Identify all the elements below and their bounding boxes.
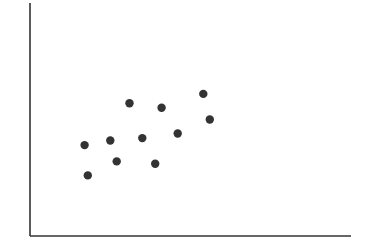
data-point xyxy=(206,115,214,123)
data-point xyxy=(174,129,182,137)
data-point xyxy=(151,160,159,168)
scatter-chart xyxy=(0,0,368,250)
data-point xyxy=(106,136,114,144)
data-point xyxy=(138,134,146,142)
data-point xyxy=(80,141,88,149)
data-point xyxy=(84,171,92,179)
data-point xyxy=(125,99,133,107)
data-point xyxy=(113,157,121,165)
points-layer xyxy=(80,90,214,180)
data-point xyxy=(157,104,165,112)
data-point xyxy=(199,90,207,98)
